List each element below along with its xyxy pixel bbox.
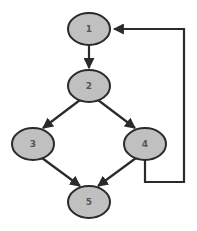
node-4: 4 <box>124 128 166 160</box>
node-4-label: 4 <box>142 139 148 149</box>
edge-3-to-5 <box>42 158 80 186</box>
node-2: 2 <box>68 70 110 102</box>
node-3-label: 3 <box>30 139 36 149</box>
node-5: 5 <box>68 186 110 218</box>
edge-2-to-3 <box>43 100 80 128</box>
edges <box>42 29 184 186</box>
node-3: 3 <box>12 128 54 160</box>
flow-graph-diagram: 1 2 3 4 5 <box>0 0 197 231</box>
edge-2-to-4 <box>98 100 135 128</box>
node-5-label: 5 <box>86 197 92 207</box>
node-1-label: 1 <box>86 24 92 34</box>
node-2-label: 2 <box>86 81 92 91</box>
node-1: 1 <box>68 13 110 45</box>
edge-4-to-5 <box>98 158 136 186</box>
